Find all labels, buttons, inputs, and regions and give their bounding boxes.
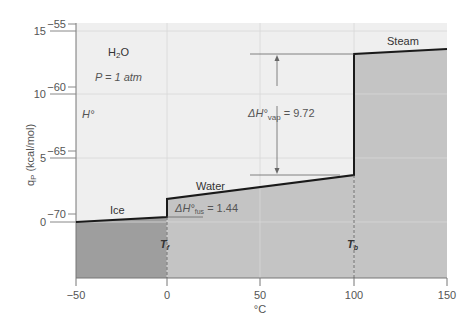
y-tick-label: 0 xyxy=(40,216,46,228)
pressure-label: P = 1 atm xyxy=(95,71,142,83)
y-axis-label: qP (kcal/mol) xyxy=(24,124,38,186)
y-tick-label: 15 xyxy=(34,25,46,37)
x-tick-label: −50 xyxy=(67,289,86,301)
x-axis-label: °C xyxy=(254,303,266,315)
h-tick-label: −60 xyxy=(47,81,66,93)
water-label: Water xyxy=(196,180,225,192)
h-tick-label: −65 xyxy=(47,145,66,157)
h-tick-label: −55 xyxy=(47,18,66,30)
enthalpy-chart: −50 0 50 100 150 °C 0 5 10 15 −70 −65 −6… xyxy=(0,0,475,326)
y-tick-label: 5 xyxy=(40,152,46,164)
fus-annotation: ΔH°fus = 1.44 xyxy=(174,202,238,215)
x-tick-label: 150 xyxy=(438,289,456,301)
ice-region xyxy=(76,217,167,278)
enthalpy-label: H° xyxy=(82,108,95,120)
ice-label: Ice xyxy=(110,204,125,216)
x-tick-label: 0 xyxy=(164,289,170,301)
x-tick-label: 100 xyxy=(345,289,363,301)
x-tick-label: 50 xyxy=(254,289,266,301)
y-tick-label: 10 xyxy=(34,88,46,100)
steam-label: Steam xyxy=(387,35,419,47)
h-tick-label: −70 xyxy=(47,208,66,220)
